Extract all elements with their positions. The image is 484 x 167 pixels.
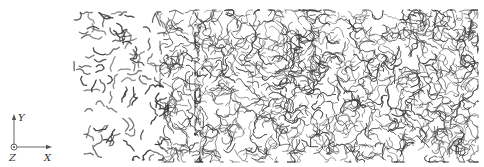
molecule-chain bbox=[368, 97, 383, 105]
molecule-chain bbox=[118, 69, 130, 71]
molecule-chain bbox=[175, 104, 188, 107]
molecule-chain bbox=[235, 39, 241, 52]
molecule-chain bbox=[436, 161, 449, 162]
molecule-chain bbox=[363, 60, 366, 75]
molecule-chain bbox=[253, 38, 261, 54]
molecule-chain bbox=[222, 137, 233, 144]
molecule-chain bbox=[200, 106, 208, 120]
molecule-chain bbox=[326, 13, 339, 24]
molecule-chain bbox=[256, 62, 266, 76]
molecule-chain bbox=[225, 103, 230, 115]
molecule-chain bbox=[79, 66, 91, 68]
molecule-chain bbox=[320, 31, 326, 44]
molecule-chain bbox=[148, 54, 153, 62]
molecule-chain bbox=[148, 39, 150, 50]
molecule-chain bbox=[253, 134, 267, 138]
z-axis-dot-icon bbox=[13, 146, 15, 148]
molecule-chain bbox=[215, 135, 217, 157]
molecule-chain bbox=[471, 126, 478, 144]
molecule-chain bbox=[107, 47, 120, 55]
molecule-chain bbox=[164, 39, 173, 48]
molecule-chain bbox=[185, 10, 199, 13]
molecule-chain bbox=[457, 12, 463, 20]
molecule-chain bbox=[188, 26, 194, 36]
molecule-chain bbox=[202, 68, 212, 79]
molecule-chain bbox=[77, 69, 91, 75]
molecule-chain bbox=[93, 145, 102, 157]
molecule-chain bbox=[88, 14, 94, 23]
molecule-chain bbox=[236, 79, 250, 88]
molecule-chain bbox=[123, 118, 129, 131]
molecule-chain bbox=[324, 10, 335, 18]
molecule-chain bbox=[125, 15, 134, 17]
molecule-chain bbox=[280, 80, 287, 91]
molecule-chain bbox=[264, 20, 266, 36]
molecule-chain bbox=[443, 10, 455, 13]
molecule-chain bbox=[423, 42, 437, 48]
molecule-chain bbox=[398, 135, 406, 149]
molecule-chain bbox=[93, 48, 105, 55]
molecule-chain bbox=[349, 18, 356, 34]
molecule-chain bbox=[158, 33, 167, 35]
molecule-chain bbox=[331, 56, 342, 62]
molecule-chain bbox=[263, 39, 271, 49]
molecule-chain bbox=[299, 120, 305, 133]
molecule-chain bbox=[328, 78, 335, 93]
molecule-chain bbox=[132, 156, 139, 160]
molecule-chain bbox=[94, 135, 102, 146]
molecule-chain bbox=[376, 119, 389, 132]
y-axis-label: Y bbox=[18, 113, 25, 123]
molecule-chain bbox=[143, 27, 150, 32]
molecule-chain bbox=[439, 95, 448, 104]
molecule-chain bbox=[236, 67, 254, 72]
molecule-chain bbox=[258, 52, 271, 65]
molecule-chain bbox=[160, 41, 161, 54]
molecule-chain bbox=[169, 10, 183, 14]
molecule-chain bbox=[197, 64, 203, 82]
molecule-chain bbox=[406, 100, 415, 114]
molecule-chain bbox=[133, 87, 136, 98]
molecule-chain bbox=[176, 33, 189, 39]
molecule-chain bbox=[267, 143, 275, 156]
molecule-chain bbox=[381, 95, 386, 107]
molecule-chain bbox=[133, 63, 135, 71]
molecule-chain bbox=[141, 130, 144, 139]
molecule-chain bbox=[238, 148, 252, 153]
molecule-chain bbox=[195, 133, 196, 136]
molecule-chain bbox=[129, 118, 134, 131]
molecule-chain bbox=[444, 91, 458, 96]
molecule-chain bbox=[218, 85, 234, 91]
molecule-chain bbox=[122, 78, 136, 82]
molecule-chain bbox=[132, 98, 137, 106]
molecule-chain bbox=[469, 117, 478, 127]
molecule-chain bbox=[268, 10, 272, 16]
molecule-chain bbox=[128, 71, 142, 75]
molecule-chain bbox=[431, 127, 435, 145]
molecule-chain bbox=[411, 40, 418, 56]
molecule-chain bbox=[82, 35, 91, 38]
molecule-chain bbox=[195, 79, 203, 87]
molecule-chain bbox=[353, 11, 365, 19]
molecule-chain bbox=[372, 11, 383, 20]
molecule-chain bbox=[373, 87, 380, 103]
molecule-chain bbox=[158, 98, 166, 102]
molecule-chain bbox=[262, 83, 273, 91]
simulation-snapshot bbox=[0, 0, 484, 167]
molecule-chain bbox=[255, 104, 271, 106]
molecule-chain bbox=[332, 27, 344, 37]
molecule-chain bbox=[184, 43, 200, 47]
molecule-chain bbox=[84, 153, 93, 155]
molecule-chain bbox=[399, 67, 416, 71]
molecule-chain bbox=[288, 22, 298, 34]
molecule-chain bbox=[107, 106, 117, 112]
molecule-chain bbox=[232, 53, 238, 73]
molecule-chain bbox=[157, 12, 161, 15]
molecule-chain bbox=[360, 17, 368, 28]
molecule-chain bbox=[112, 12, 122, 15]
molecule-chains bbox=[74, 10, 478, 162]
molecule-chain bbox=[109, 91, 112, 103]
molecule-chain bbox=[446, 101, 454, 113]
molecule-chain bbox=[81, 76, 87, 85]
molecule-chain bbox=[423, 42, 437, 48]
molecule-chain bbox=[269, 56, 287, 60]
